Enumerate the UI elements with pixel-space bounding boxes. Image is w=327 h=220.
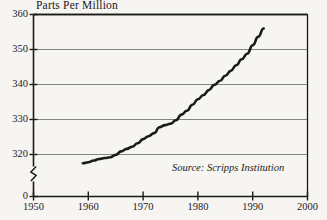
x-tick-label-1990: 1990 [233, 201, 273, 212]
source-note: Source: Scripps Institution [172, 162, 284, 173]
x-tick-label-1950: 1950 [14, 201, 54, 212]
y-tick-label-340: 340 [2, 78, 28, 89]
x-tick-label-1960: 1960 [68, 201, 108, 212]
gridlines-group [34, 15, 308, 155]
y-tick-label-320: 320 [2, 148, 28, 159]
x-tick-label-1970: 1970 [123, 201, 163, 212]
y-tick-label-350: 350 [2, 43, 28, 54]
y-tick-label-360: 360 [2, 8, 28, 19]
co2-chart-figure: Parts Per Million 0320330340350360 19501… [0, 0, 327, 220]
y-tick-label-330: 330 [2, 113, 28, 124]
plot-area [0, 0, 327, 220]
y-tick-label-0: 0 [2, 190, 28, 201]
x-tick-label-1980: 1980 [178, 201, 218, 212]
y-axis-break-icon [30, 167, 36, 182]
x-tick-label-2000: 2000 [288, 201, 327, 212]
data-series-line [83, 29, 264, 164]
